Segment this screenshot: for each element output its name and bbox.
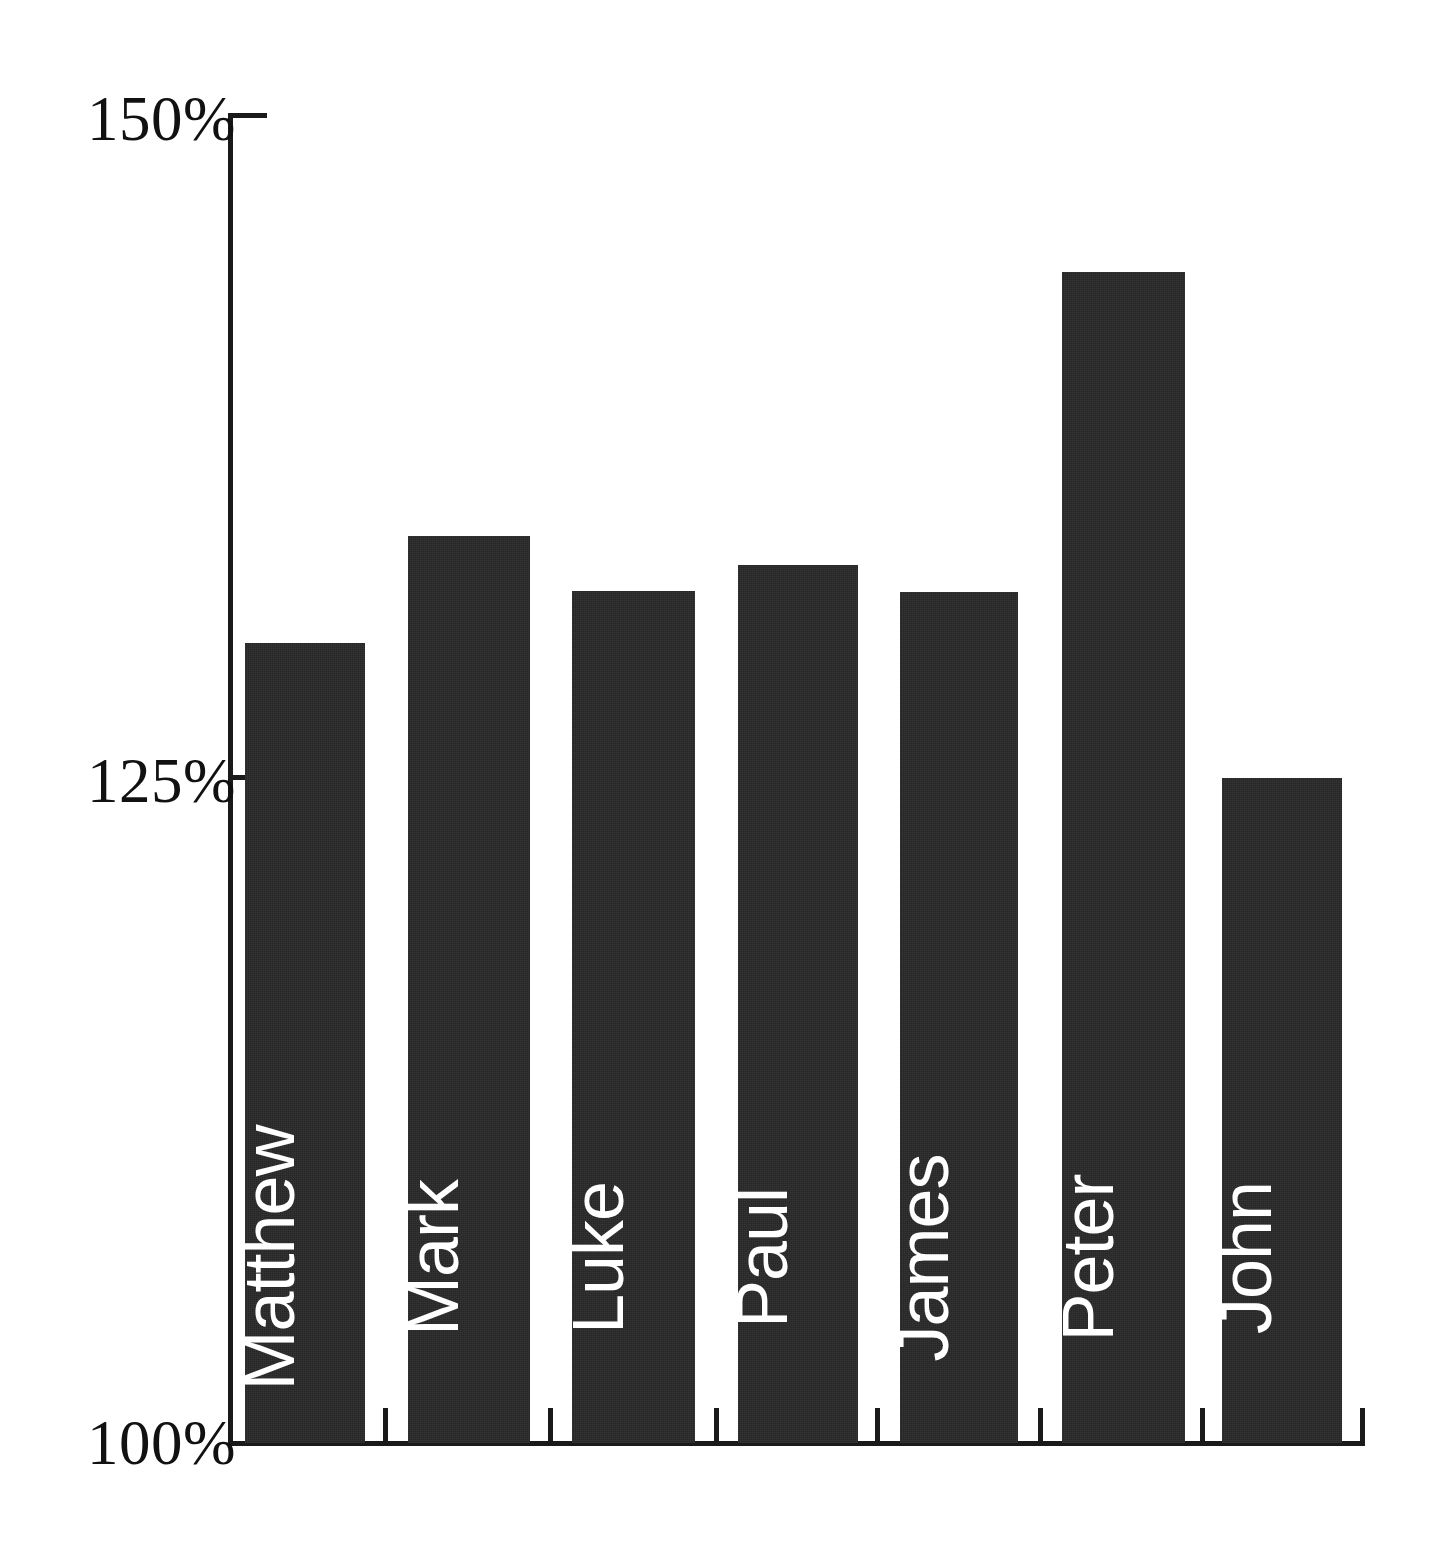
y-axis-tick-150: [231, 113, 267, 118]
x-axis-tick-1: [383, 1408, 388, 1444]
y-axis-label-125: 125%: [16, 750, 236, 813]
bar-label-matthew: Matthew: [233, 1125, 305, 1390]
bar-peter[interactable]: Peter: [1062, 272, 1185, 1443]
bar-john[interactable]: John: [1222, 778, 1342, 1443]
bar-label-james: James: [887, 1154, 959, 1361]
x-axis-tick-2: [548, 1408, 553, 1444]
bar-james[interactable]: James: [900, 592, 1018, 1443]
bar-label-luke: Luke: [562, 1182, 634, 1334]
bar-paul[interactable]: Paul: [738, 565, 858, 1443]
x-axis-tick-4: [875, 1408, 880, 1444]
bar-mark[interactable]: Mark: [408, 536, 530, 1443]
bar-matthew[interactable]: Matthew: [245, 643, 365, 1443]
bar-label-john: John: [1210, 1182, 1282, 1334]
bar-luke[interactable]: Luke: [572, 591, 695, 1443]
x-axis-tick-3: [714, 1408, 719, 1444]
x-axis-tick-5: [1038, 1408, 1043, 1444]
y-axis-label-150: 150%: [16, 88, 236, 151]
y-axis-label-100: 100%: [16, 1412, 236, 1475]
bar-label-mark: Mark: [397, 1180, 469, 1336]
bar-label-paul: Paul: [726, 1188, 798, 1328]
x-axis-tick-7: [1360, 1408, 1365, 1444]
bar-chart: 150% 125% 100% Matthew Mark Luke Paul Ja…: [0, 0, 1436, 1544]
bar-label-peter: Peter: [1052, 1174, 1124, 1341]
x-axis-tick-6: [1200, 1408, 1205, 1444]
